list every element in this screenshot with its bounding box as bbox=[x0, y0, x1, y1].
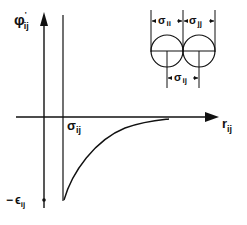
y-axis-label: φ'ij bbox=[14, 10, 29, 31]
inset-sigma-ij-label: σij bbox=[174, 71, 187, 85]
sphere-inset: σii σjj σij bbox=[151, 10, 215, 88]
sigma-ij-label: σij bbox=[67, 118, 81, 135]
y-axis-arrow-icon bbox=[40, 12, 48, 26]
sigma-jj-label: σjj bbox=[189, 14, 202, 28]
x-axis bbox=[16, 112, 219, 122]
x-axis-label: rij bbox=[222, 116, 232, 134]
potential-diagram: φ'ij rij σij −ϵij bbox=[0, 0, 247, 225]
sigma-ii-label: σii bbox=[158, 14, 171, 28]
epsilon-label: −ϵij bbox=[6, 193, 25, 209]
well-depth-marker bbox=[42, 198, 46, 202]
y-axis bbox=[40, 12, 48, 208]
x-axis-arrow-icon bbox=[205, 112, 219, 122]
